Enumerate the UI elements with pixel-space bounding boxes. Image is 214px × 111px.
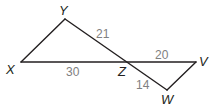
segment-xy [21, 19, 65, 62]
vertex-label-v: V [199, 54, 209, 69]
length-label-yz: 21 [96, 27, 110, 41]
vertex-label-y: Y [59, 3, 69, 18]
segment-vw [167, 62, 196, 90]
length-label-zv: 20 [155, 48, 169, 62]
triangle-diagram: Y X Z V W 21 30 20 14 [0, 0, 214, 111]
length-label-xz: 30 [66, 65, 80, 79]
vertex-label-z: Z [117, 64, 127, 79]
vertex-label-x: X [5, 62, 16, 77]
diagram-canvas: Y X Z V W 21 30 20 14 [0, 0, 214, 111]
vertex-label-w: W [161, 92, 175, 107]
segment-yw [65, 19, 167, 90]
length-label-zw: 14 [136, 78, 150, 92]
